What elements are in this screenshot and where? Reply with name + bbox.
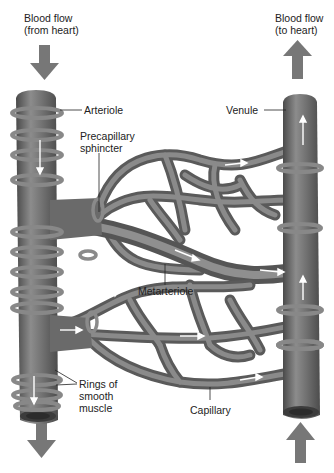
- flow-arrow-in-top-left-icon: [30, 45, 59, 80]
- label-metarteriole: Metarteriole: [138, 285, 193, 297]
- label-rings-of-smooth-muscle: Rings of smooth muscle: [79, 378, 118, 414]
- label-arteriole: Arteriole: [84, 104, 123, 116]
- label-flow-from-heart: Blood flow (from heart): [24, 12, 79, 36]
- flow-arrow-out-bottom-left-icon: [27, 423, 56, 458]
- label-venule: Venule: [226, 104, 258, 116]
- flow-arrow-in-bottom-right-icon: [286, 422, 315, 463]
- label-capillary: Capillary: [190, 404, 231, 416]
- venule-vessel: [283, 94, 320, 419]
- flow-arrow-out-top-right-icon: [283, 40, 312, 79]
- capillary-bed-diagram: [0, 0, 334, 473]
- label-flow-to-heart: Blood flow (to heart): [275, 12, 323, 36]
- label-precapillary-sphincter: Precapillary sphincter: [80, 130, 135, 154]
